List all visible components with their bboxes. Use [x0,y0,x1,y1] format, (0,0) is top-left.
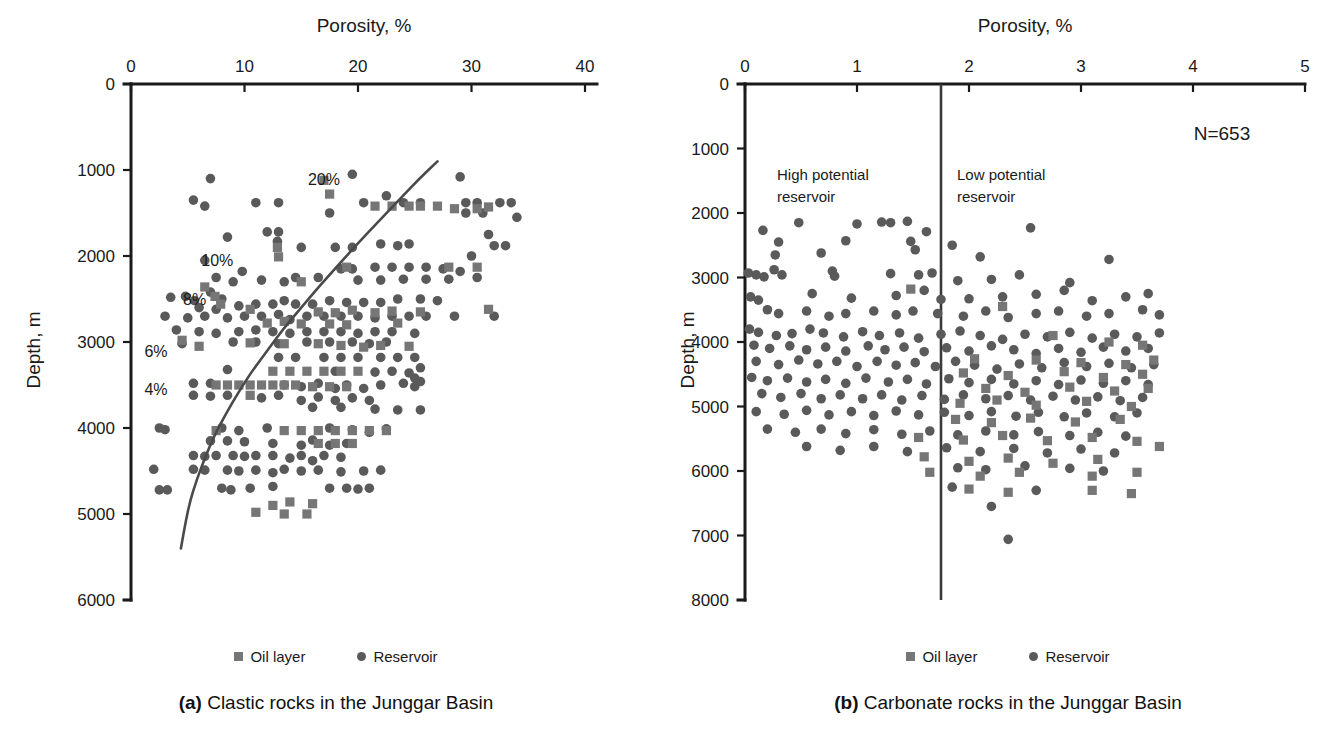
data-point-reservoir [987,502,997,512]
data-point-reservoir [824,410,834,420]
data-point-reservoir [953,276,963,286]
x-axis-title-b: Porosity, % [978,15,1073,36]
data-point-reservoir [268,299,278,309]
data-point-oil-layer [331,426,340,435]
panel-a-yticks: 0100020003000400050006000 [77,75,131,610]
data-point-reservoir [802,345,812,355]
data-point-reservoir [891,291,901,301]
data-point-reservoir [1031,309,1041,319]
data-point-oil-layer [325,189,334,198]
data-point-reservoir [506,198,516,208]
data-point-reservoir [1054,380,1064,390]
data-point-reservoir [240,452,250,462]
data-point-reservoir [832,357,842,367]
data-point-reservoir [348,170,358,180]
data-point-reservoir [992,364,1002,374]
data-point-reservoir [251,465,261,475]
data-point-reservoir [914,410,924,420]
legend-label-oil-layer-b: Oil layer [922,648,977,665]
data-point-reservoir [791,428,801,438]
data-point-oil-layer [308,499,317,508]
data-point-reservoir [858,327,868,337]
data-point-reservoir [774,309,784,319]
data-point-oil-layer [404,202,413,211]
data-point-reservoir [1143,289,1153,299]
data-point-reservoir [359,298,369,308]
data-point-reservoir [897,395,907,405]
data-point-reservoir [917,391,927,401]
data-point-reservoir [839,332,849,342]
data-point-reservoir [228,277,238,287]
data-point-reservoir [1076,375,1086,385]
data-point-oil-layer [1088,472,1097,481]
panel-a-datapoints [149,170,522,519]
y-tick-label: 5000 [691,398,729,417]
data-point-oil-layer [1048,331,1057,340]
x-tick-label: 0 [740,57,749,76]
data-point-reservoir [1048,391,1058,401]
data-point-reservoir [336,452,346,462]
data-point-reservoir [1015,359,1025,369]
data-point-reservoir [274,353,284,363]
data-point-oil-layer [387,306,396,315]
data-point-reservoir [931,362,941,372]
data-point-oil-layer [964,484,973,493]
data-point-reservoir [1082,311,1092,321]
data-point-oil-layer [325,319,334,328]
data-point-reservoir [1026,223,1036,233]
data-point-oil-layer [976,472,985,481]
legend-entry-oil-layer-b: Oil layer [906,648,977,665]
data-point-reservoir [751,407,761,417]
data-point-reservoir [416,405,426,415]
data-point-reservoir [785,341,795,351]
data-point-reservoir [455,267,465,277]
x-tick-label: 1 [852,57,861,76]
data-point-reservoir [910,358,920,368]
data-point-reservoir [914,333,924,343]
y-tick-label: 2000 [77,247,115,266]
data-point-reservoir [189,378,199,388]
caption-tag-a: (a) [179,692,202,713]
data-point-reservoir [223,232,233,242]
data-point-reservoir [1121,346,1131,356]
data-point-reservoir [987,275,997,285]
data-point-reservoir [925,426,935,436]
data-point-reservoir [1115,396,1125,406]
data-point-reservoir [416,377,426,387]
data-point-reservoir [1065,464,1075,474]
data-point-oil-layer [291,380,300,389]
data-point-reservoir [1043,448,1053,458]
data-point-reservoir [308,456,318,466]
data-point-reservoir [291,299,301,309]
data-point-reservoir [757,389,767,399]
data-point-reservoir [777,270,787,280]
panel-b-plot: 012345 010002000300040005000600070008000… [672,0,1344,648]
data-point-reservoir [1031,289,1041,299]
circle-marker-icon [357,652,366,661]
data-point-oil-layer [1071,417,1080,426]
data-point-reservoir [908,306,918,316]
data-point-reservoir [944,374,954,384]
data-point-reservoir [875,331,885,341]
data-point-reservoir [211,451,221,461]
data-point-oil-layer [998,431,1007,440]
data-point-reservoir [947,482,957,492]
data-point-oil-layer [1110,386,1119,395]
data-point-reservoir [940,395,950,405]
data-point-reservoir [268,439,278,449]
data-point-reservoir [313,465,323,475]
data-point-oil-layer [1093,455,1102,464]
data-point-reservoir [359,198,369,208]
data-point-reservoir [393,241,403,251]
data-point-oil-layer [1132,437,1141,446]
data-point-oil-layer [302,367,311,376]
data-point-reservoir [387,262,397,272]
data-point-oil-layer [382,426,391,435]
data-point-reservoir [884,377,894,387]
data-point-oil-layer [1138,341,1147,350]
data-point-reservoir [1087,333,1097,343]
panel-a-xticks: 010203040 [126,57,594,92]
x-tick-label: 2 [964,57,973,76]
data-point-reservoir [847,407,857,417]
data-point-oil-layer [1065,383,1074,392]
